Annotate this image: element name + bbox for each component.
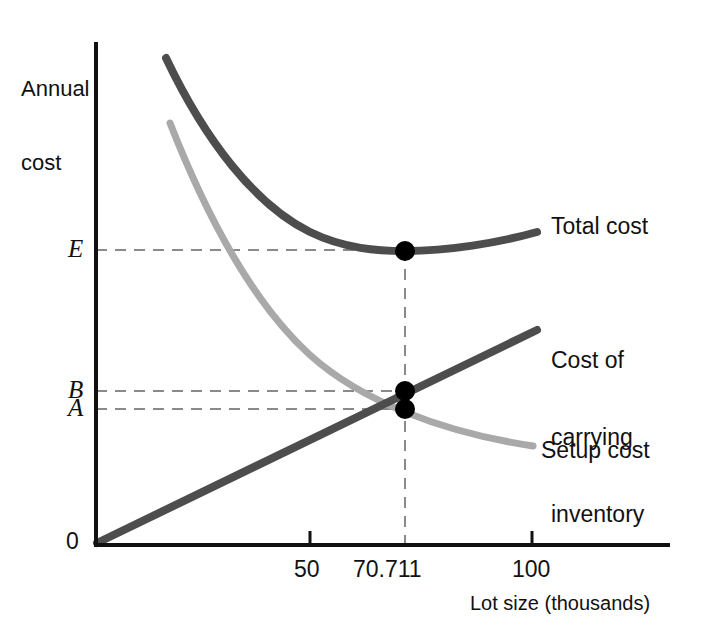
x-axis-caption: Lot size (thousands) <box>470 592 650 614</box>
series-label-carrying-line-3: inventory <box>551 502 644 528</box>
setup-cost-curve <box>170 123 533 446</box>
origin-label: 0 <box>66 529 79 555</box>
series-label-total-cost: Total cost <box>551 214 648 240</box>
chart-figure: Annual cost E B A 0 50 70.711 100 Lot si… <box>0 0 701 632</box>
optimum-marker-carrying <box>395 381 415 401</box>
series-label-carrying-line-1: Cost of <box>551 348 644 374</box>
optimum-marker-setup <box>395 399 415 419</box>
y-level-label-e: E <box>68 235 83 263</box>
x-tick-label-70711: 70.711 <box>353 557 422 583</box>
x-tick-label-100: 100 <box>512 557 550 583</box>
y-axis-title-line-1: Annual <box>21 77 90 102</box>
x-tick-label-50: 50 <box>294 557 320 583</box>
y-level-label-a: A <box>68 394 83 422</box>
series-label-setup-cost: Setup cost <box>541 438 650 464</box>
optimum-marker-total <box>395 241 415 261</box>
y-axis-title-line-2: cost <box>21 151 90 176</box>
total-cost-curve <box>166 58 537 251</box>
y-axis-title: Annual cost <box>21 28 90 225</box>
